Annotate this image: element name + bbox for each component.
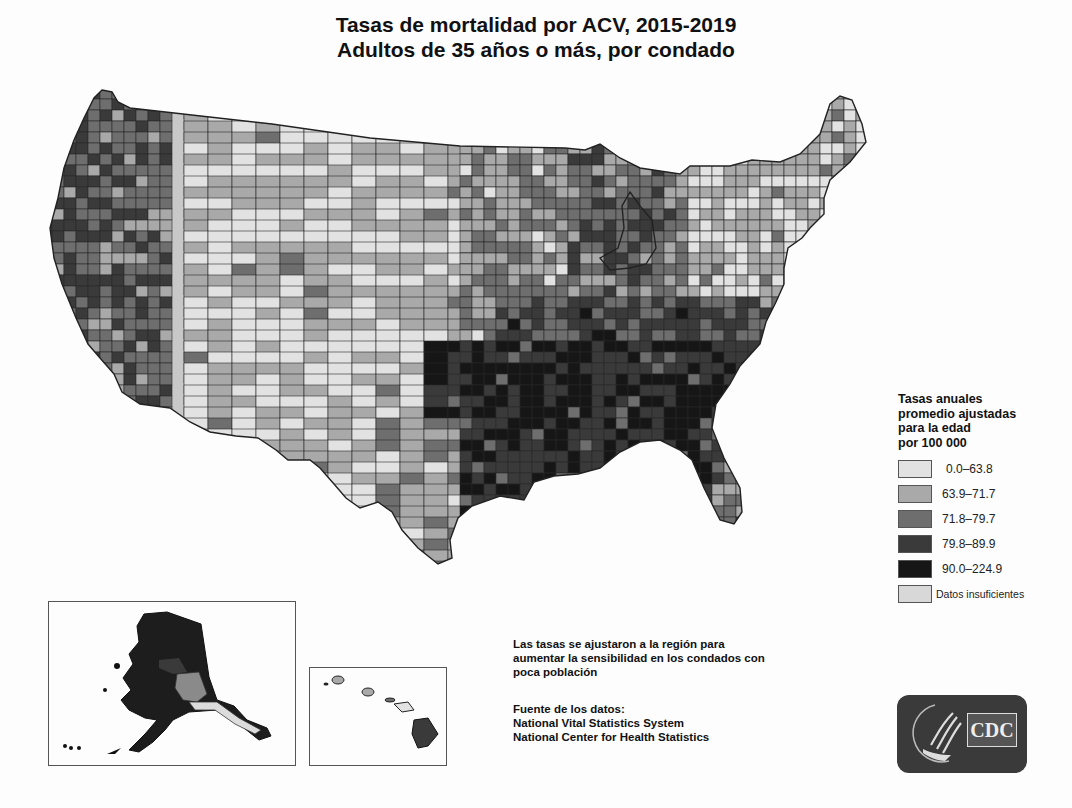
legend-label: 79.8–89.9 <box>942 537 995 551</box>
map-title: Tasas de mortalidad por ACV, 2015-2019 A… <box>0 12 1072 62</box>
title-line-2: Adultos de 35 años o más, por condado <box>0 37 1072 62</box>
source-line: National Vital Statistics System <box>513 716 709 730</box>
legend-swatch <box>898 460 932 478</box>
us-choropleth-map <box>40 88 890 618</box>
county-mosaic <box>40 88 890 618</box>
alaska-map <box>49 602 295 765</box>
legend-item: 79.8–89.9 <box>898 531 1068 556</box>
hawaii-map <box>310 668 446 765</box>
legend-title-line: para la edad <box>898 421 1068 436</box>
legend-label: 71.8–79.7 <box>942 512 995 526</box>
cdc-wordmark: CDC <box>967 713 1017 747</box>
note-line: poca población <box>513 665 813 679</box>
note-line: Las tasas se ajustaron a la región para <box>513 637 813 651</box>
legend-title: Tasas anuales promedio ajustadas para la… <box>898 392 1068 450</box>
data-source: Fuente de los datos: National Vital Stat… <box>513 702 709 744</box>
legend-item: 63.9–71.7 <box>898 481 1068 506</box>
source-line: Fuente de los datos: <box>513 702 709 716</box>
cdc-logo: CDC <box>897 695 1027 773</box>
legend-item: 0.0–63.8 <box>898 456 1068 481</box>
legend-swatch <box>898 535 932 553</box>
legend-item: 90.0–224.9 <box>898 556 1068 581</box>
legend-item: 71.8–79.7 <box>898 506 1068 531</box>
adjustment-note: Las tasas se ajustaron a la región para … <box>513 637 813 679</box>
source-line: National Center for Health Statistics <box>513 730 709 744</box>
hawaii-inset <box>309 667 447 766</box>
legend-item: Datos insuficientes <box>898 581 1068 606</box>
legend-swatch <box>898 560 932 578</box>
alaska-inset <box>48 601 296 766</box>
hhs-eagle-icon <box>901 695 971 773</box>
legend-swatch <box>898 510 932 528</box>
legend-title-line: promedio ajustadas <box>898 407 1068 422</box>
legend-swatch <box>898 585 932 603</box>
legend-swatch <box>898 485 932 503</box>
legend-label: Datos insuficientes <box>936 588 1024 600</box>
note-line: aumentar la sensibilidad en los condados… <box>513 651 813 665</box>
title-line-1: Tasas de mortalidad por ACV, 2015-2019 <box>0 12 1072 37</box>
legend-label: 63.9–71.7 <box>942 487 995 501</box>
legend: Tasas anuales promedio ajustadas para la… <box>898 392 1068 606</box>
legend-title-line: por 100 000 <box>898 436 1068 451</box>
legend-label: 90.0–224.9 <box>942 562 1002 576</box>
legend-title-line: Tasas anuales <box>898 392 1068 407</box>
legend-label: 0.0–63.8 <box>946 462 993 476</box>
